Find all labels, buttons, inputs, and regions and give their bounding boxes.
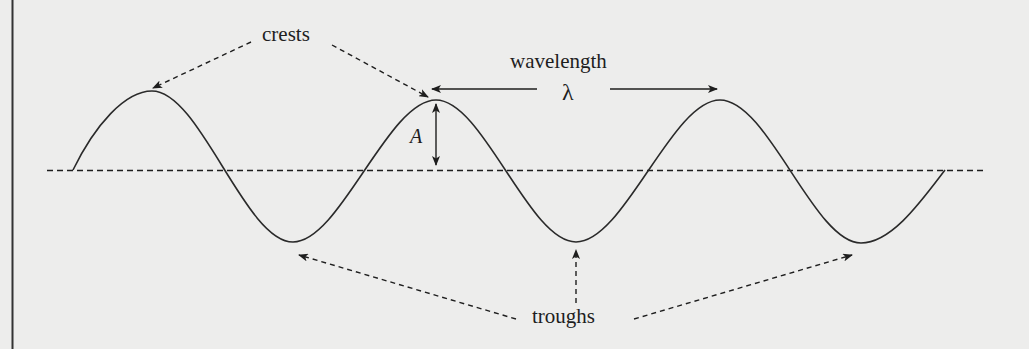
wave-diagram: crests wavelength λ A troughs [0,0,1029,349]
wave-curve [73,91,945,243]
troughs-label: troughs [532,306,595,327]
wavelength-label: wavelength [510,51,607,72]
troughs-pointer-right [634,255,852,319]
troughs-pointer-left [299,255,516,319]
crests-pointer-left [153,42,251,88]
crests-pointer-right [332,45,428,97]
amplitude-label: A [410,126,422,146]
crests-label: crests [262,24,310,45]
lambda-symbol: λ [562,80,574,104]
